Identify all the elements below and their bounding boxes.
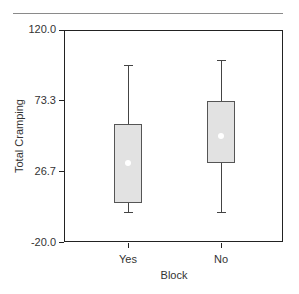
y-tick-label: 120.0 (6, 23, 56, 35)
upper-whisker-cap (124, 65, 133, 66)
top-rule (13, 13, 283, 14)
y-tick-label: -20.0 (6, 236, 56, 248)
y-tick-mark (59, 242, 64, 243)
plot-frame (64, 30, 283, 242)
y-tick-mark (59, 100, 64, 101)
lower-whisker (221, 163, 222, 211)
x-axis-title: Block (134, 269, 214, 281)
lower-whisker (128, 203, 129, 212)
upper-whisker (128, 65, 129, 124)
lower-whisker-cap (217, 212, 226, 213)
y-tick-mark (59, 171, 64, 172)
y-tick-label: 26.7 (6, 165, 56, 177)
lower-whisker-cap (124, 212, 133, 213)
mean-marker (218, 133, 224, 139)
x-tick-mark (221, 243, 222, 248)
x-tick-label: No (201, 253, 241, 265)
upper-whisker-cap (217, 60, 226, 61)
upper-whisker (221, 60, 222, 101)
x-tick-label: Yes (108, 253, 148, 265)
y-tick-label: 73.3 (6, 94, 56, 106)
x-tick-mark (128, 243, 129, 248)
y-tick-mark (59, 30, 64, 31)
